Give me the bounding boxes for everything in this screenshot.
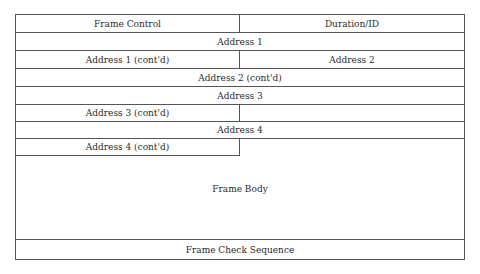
field-address-4: Address 4 [15, 121, 465, 139]
field-address-1-cont: Address 1 (cont'd) [15, 50, 240, 69]
field-address-4-cont: Address 4 (cont'd) [15, 138, 240, 156]
field-address-3-cont: Address 3 (cont'd) [15, 104, 240, 122]
field-address-2: Address 2 [239, 50, 465, 69]
field-address-1: Address 1 [15, 32, 465, 51]
field-address-3: Address 3 [15, 86, 465, 105]
field-frame-control: Frame Control [15, 14, 240, 33]
field-blank [239, 104, 465, 122]
field-duration-id: Duration/ID [239, 14, 465, 33]
frame-format-diagram: Frame Control Duration/ID Address 1 Addr… [15, 14, 465, 260]
field-frame-check-sequence: Frame Check Sequence [15, 239, 465, 260]
field-address-2-cont: Address 2 (cont'd) [15, 68, 465, 87]
